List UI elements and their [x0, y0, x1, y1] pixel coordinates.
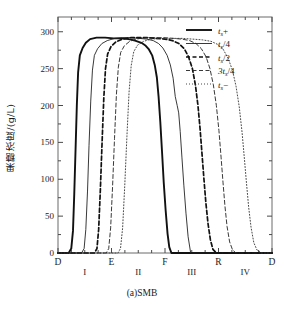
series-line: [58, 38, 272, 253]
y-axis-tick-labels: 050100150200250300: [41, 27, 55, 258]
figure-smb-fructose-profile: 果糖浓度/(g/L) 050100150200250300 DEFRD IIII…: [0, 0, 284, 322]
legend-label: ts/2: [218, 53, 230, 64]
series-line: [58, 38, 272, 253]
legend-label: ts+: [218, 26, 228, 37]
chart-canvas: 050100150200250300 DEFRD IIIIIIIV ts+ts/…: [0, 0, 284, 290]
port-label: D: [269, 257, 276, 267]
y-tick-label: 200: [41, 101, 55, 111]
port-label: E: [109, 257, 115, 267]
y-tick-label: 300: [41, 27, 55, 37]
y-tick-label: 100: [41, 174, 55, 184]
legend: ts+ts/4ts/23ts/4ts−: [186, 26, 235, 91]
series-line: [58, 38, 272, 253]
zone-label: III: [187, 267, 196, 277]
y-axis-title: 果糖浓度/(g/L): [2, 58, 20, 218]
series-line: [58, 38, 272, 253]
y-axis-ticks: [58, 32, 272, 253]
port-label: D: [55, 257, 62, 267]
zone-label: IV: [241, 267, 251, 277]
zone-label: II: [135, 267, 141, 277]
legend-label: ts−: [218, 80, 228, 91]
zone-label: I: [83, 267, 86, 277]
figure-caption: (a)SMB: [0, 288, 284, 298]
y-tick-label: 250: [41, 64, 55, 74]
data-series-group: [58, 38, 272, 253]
port-label: R: [215, 257, 222, 267]
series-line: [58, 38, 272, 253]
legend-label: 3ts/4: [217, 66, 235, 77]
legend-label: ts/4: [218, 39, 231, 50]
port-label: F: [162, 257, 167, 267]
y-tick-label: 150: [41, 137, 55, 147]
y-tick-label: 50: [45, 211, 55, 221]
x-axis-port-labels: DEFRD: [55, 257, 276, 267]
x-axis-zone-labels: IIIIIIIV: [83, 267, 250, 277]
